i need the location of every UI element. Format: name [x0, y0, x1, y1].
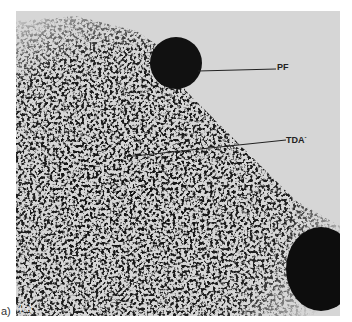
label-pf: PF — [277, 62, 289, 72]
panel-letter: a) — [1, 305, 11, 317]
label-tda: TDA- — [286, 134, 307, 145]
follicle-pf — [150, 37, 202, 89]
label-tda-text: TDA — [286, 135, 305, 145]
micrograph-image — [16, 11, 340, 316]
label-tda-sup: - — [305, 134, 307, 140]
inset-letter: (a) — [19, 302, 32, 314]
histology-micrograph: (a) — [16, 11, 340, 316]
